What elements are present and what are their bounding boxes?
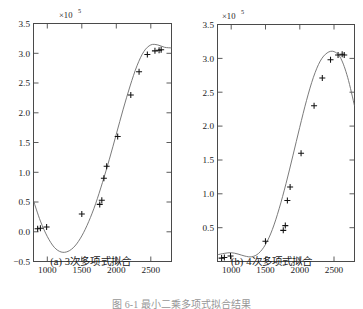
plot-a-svg: ×10 5 <box>0 0 181 290</box>
data-points-a <box>35 47 165 232</box>
y-tick-label-b-3.5: 3.5 <box>203 20 215 30</box>
data-points-b <box>219 51 348 261</box>
y-tick-label-a-3.0: 3.0 <box>19 49 31 59</box>
y-tick-label-b-2.5: 2.5 <box>203 88 215 98</box>
y-axis-exponent-a: ×10 <box>59 10 72 20</box>
y-tick-label-b-2.0: 2.0 <box>203 121 215 131</box>
y-tick-label-a-1.5: 1.5 <box>19 138 31 148</box>
y-tick-label-a-3.5: 3.5 <box>19 19 31 29</box>
figure-bottom-caption: 图 6-1 最小二乘多项式拟合结果 <box>0 298 363 309</box>
fit-curve-a <box>34 44 172 252</box>
plot-panel-a: ×10 5 <box>0 0 181 290</box>
y-tick-label-a-0.5: 0.5 <box>19 197 31 207</box>
panel-a-caption: (a) 3次多项式拟合 <box>0 253 181 268</box>
y-tick-label-a-1.0: 1.0 <box>19 168 31 178</box>
y-axis-exponent-sup-b: 5 <box>241 8 244 15</box>
plot-b-svg: ×10 5 3.5 3.0 2.5 2.0 <box>181 0 363 290</box>
y-tick-label-b-1.5: 1.5 <box>203 155 215 165</box>
y-tick-label-a-0.0: 0.0 <box>19 227 31 237</box>
plot-a-frame <box>34 24 172 262</box>
plot-b-y-ticks <box>218 25 355 228</box>
y-axis-exponent-b: ×10 <box>222 11 235 21</box>
y-tick-label-b-0.5: 0.5 <box>203 223 215 233</box>
plot-panel-b: ×10 5 3.5 3.0 2.5 2.0 <box>181 0 362 290</box>
figure-container: ×10 5 <box>0 0 363 309</box>
plot-a-y-ticks <box>34 24 172 262</box>
plot-a-x-ticks <box>47 24 151 262</box>
y-tick-label-b-1.0: 1.0 <box>203 189 215 199</box>
y-tick-label-b-3.0: 3.0 <box>203 54 215 64</box>
y-tick-label-a-2.5: 2.5 <box>19 78 31 88</box>
y-tick-label-a-2.0: 2.0 <box>19 108 31 118</box>
y-axis-exponent-sup-a: 5 <box>78 7 81 14</box>
panel-b-caption: (b) 4次多项式拟合 <box>181 253 362 268</box>
